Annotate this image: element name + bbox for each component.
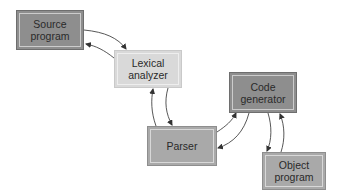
label-line1: Code <box>250 81 275 93</box>
arrow-source-to-lexical <box>84 30 126 49</box>
node-label: Codegenerator <box>241 81 286 105</box>
node-label: Parser <box>167 140 198 152</box>
node-label: Sourceprogram <box>30 18 69 42</box>
label-line1: Source <box>33 18 66 30</box>
label-line2: program <box>274 171 313 183</box>
arrow-lexical-to-parser <box>166 88 172 125</box>
node-label: Lexicalanalyzer <box>128 57 168 81</box>
label-line1: Lexical <box>132 57 165 69</box>
arrow-lexical-to-source <box>86 44 114 58</box>
arrow-parser-to-lexical <box>152 89 156 126</box>
label-line2: analyzer <box>128 69 168 81</box>
arrow-codegen-to-object <box>267 113 271 151</box>
label-line2: generator <box>241 93 286 105</box>
label-line2: program <box>30 30 69 42</box>
arrow-object-to-codegen <box>280 114 284 152</box>
node-object-program: Objectprogram <box>262 152 326 190</box>
node-code-generator: Codegenerator <box>229 72 297 113</box>
label-line1: Object <box>279 159 309 171</box>
node-label: Objectprogram <box>274 159 313 183</box>
arrow-parser-to-codegen <box>217 113 236 132</box>
node-lexical-analyzer: Lexicalanalyzer <box>114 50 182 88</box>
node-source-program: Sourceprogram <box>16 10 84 50</box>
arrow-codegen-to-parser <box>218 113 249 148</box>
node-parser: Parser <box>147 126 217 166</box>
